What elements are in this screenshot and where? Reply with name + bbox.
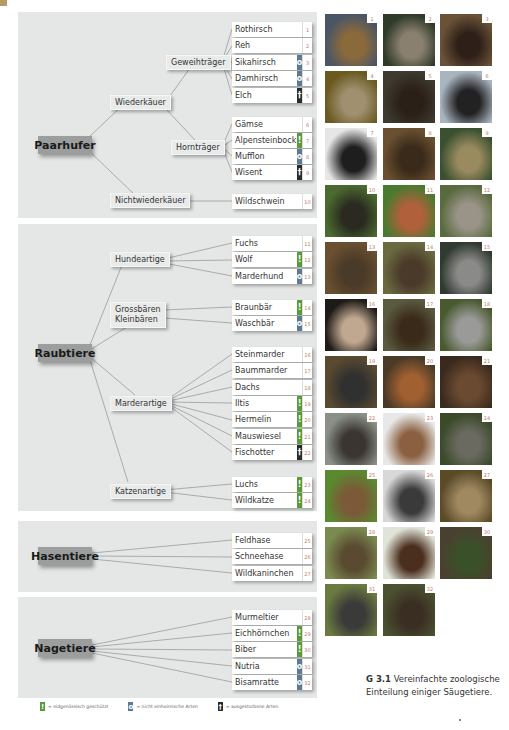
animal-photo: 21 <box>440 356 492 408</box>
photo-number: 22 <box>367 413 377 422</box>
legend-item-extinct: † = ausgestorbene Arten <box>218 702 278 711</box>
species-box: Biber!30 <box>232 642 312 657</box>
photo-number: 17 <box>425 299 435 308</box>
species-name: Gämse <box>232 120 297 129</box>
species-name: Waschbär <box>232 319 297 328</box>
species-number: 16 <box>302 347 312 362</box>
species-box: Fischotter†22 <box>232 445 312 460</box>
species-number: 1 <box>302 22 312 37</box>
species-box: Bisamratteo32 <box>232 675 312 690</box>
group-horntraeger: Hornträger <box>171 140 225 155</box>
species-number: 5 <box>302 88 312 103</box>
photo-number: 19 <box>367 356 377 365</box>
group-geweihtraeger: Geweihträger <box>166 55 231 70</box>
species-number: 28 <box>302 610 312 625</box>
species-name: Iltis <box>232 399 297 408</box>
species-box: Elch†5 <box>232 88 312 103</box>
caption-line-2: Einteilung einiger Säugetiere. <box>366 687 492 697</box>
group-katzenartige: Katzenartige <box>110 484 171 499</box>
photo-number: 28 <box>367 527 377 536</box>
species-box: Nutriao31 <box>232 659 312 674</box>
species-box: Gämse6 <box>232 117 312 132</box>
animal-photo: 10 <box>325 185 377 237</box>
species-box: Wolf!12 <box>232 252 312 267</box>
species-name: Wisent <box>232 168 297 177</box>
species-name: Damhirsch <box>232 74 297 83</box>
animal-photo: 12 <box>440 185 492 237</box>
species-number: 20 <box>302 412 312 427</box>
species-number: 32 <box>302 675 312 690</box>
photo-number: 32 <box>425 584 435 593</box>
species-name: Baummarder <box>232 366 297 375</box>
photo-number: 13 <box>367 242 377 251</box>
species-number: 12 <box>302 252 312 267</box>
photo-number: 10 <box>367 185 377 194</box>
animal-photo: 7 <box>325 128 377 180</box>
photo-number: 12 <box>482 185 492 194</box>
animal-photo: 20 <box>383 356 435 408</box>
group-wiederkaeuer: Wiederkäuer <box>110 95 171 110</box>
animal-photo: 9 <box>440 128 492 180</box>
species-name: Eichhörnchen <box>232 629 297 638</box>
legend: ! = eidgenössisch geschützt o = nicht ei… <box>40 702 292 711</box>
species-box: Wildschwein10 <box>232 194 312 209</box>
animal-photo: 25 <box>325 470 377 522</box>
photo-number: 14 <box>425 242 435 251</box>
species-box: Murmeltier28 <box>232 610 312 625</box>
order-hasentiere: Hasentiere <box>38 547 92 565</box>
species-name: Fuchs <box>232 239 297 248</box>
caption-line-1: Vereinfachte zoologische <box>394 674 500 684</box>
animal-photo: 22 <box>325 413 377 465</box>
species-box: Alpensteinbock!7 <box>232 133 312 148</box>
photo-number: 9 <box>482 128 492 137</box>
extinct-icon: † <box>218 702 223 711</box>
species-name: Steinmarder <box>232 350 297 359</box>
animal-photo: 13 <box>325 242 377 294</box>
animal-photo: 29 <box>383 527 435 579</box>
order-nagetiere: Nagetiere <box>38 639 92 657</box>
animal-photo: 16 <box>325 299 377 351</box>
species-box: Baummarder17 <box>232 363 312 378</box>
species-name: Mauswiesel <box>232 432 297 441</box>
animal-photo: 19 <box>325 356 377 408</box>
species-box: Feldhase25 <box>232 533 312 548</box>
species-name: Bisamratte <box>232 678 297 687</box>
animal-photo: 26 <box>383 470 435 522</box>
photo-number: 30 <box>482 527 492 536</box>
species-box: Hermelin!20 <box>232 412 312 427</box>
group-kleinbaeren: Kleinbären <box>115 315 158 325</box>
species-number: 26 <box>302 549 312 564</box>
animal-photo: 30 <box>440 527 492 579</box>
animal-photo: 32 <box>383 584 435 636</box>
photo-number: 7 <box>367 128 377 137</box>
animal-photo: 3 <box>440 14 492 66</box>
photo-number: 21 <box>482 356 492 365</box>
photo-number: 16 <box>367 299 377 308</box>
photo-number: 18 <box>482 299 492 308</box>
species-box: Rothirsch1 <box>232 22 312 37</box>
animal-photo: 27 <box>440 470 492 522</box>
photo-number: 15 <box>482 242 492 251</box>
photo-number: 5 <box>425 71 435 80</box>
species-name: Wildkaninchen <box>232 569 297 578</box>
legend-item-protected: ! = eidgenössisch geschützt <box>40 702 108 711</box>
legend-label: = eidgenössisch geschützt <box>48 704 108 709</box>
species-name: Braunbär <box>232 303 297 312</box>
species-number: 15 <box>302 316 312 331</box>
group-hundeartige: Hundeartige <box>110 252 170 267</box>
species-box: Schneehase26 <box>232 549 312 564</box>
species-name: Marderhund <box>232 272 297 281</box>
figure-number: G 3.1 <box>366 674 391 684</box>
photo-number: 31 <box>367 584 377 593</box>
photo-number: 23 <box>425 413 435 422</box>
photo-number: 1 <box>367 14 377 23</box>
animal-photo: 31 <box>325 584 377 636</box>
species-number: 9 <box>302 165 312 180</box>
figure-caption: G 3.1 Vereinfachte zoologische Einteilun… <box>366 673 500 699</box>
order-raubtiere: Raubtiere <box>38 344 92 362</box>
animal-photo: 23 <box>383 413 435 465</box>
animal-photo: 15 <box>440 242 492 294</box>
species-number: 13 <box>302 269 312 284</box>
species-name: Biber <box>232 645 297 654</box>
group-grossbaeren-kleinbaeren: Grossbären Kleinbären <box>110 302 166 328</box>
